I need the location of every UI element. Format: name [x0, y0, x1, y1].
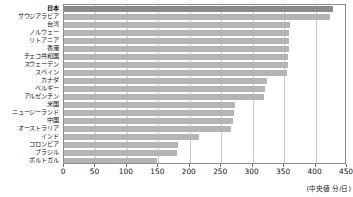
category-label: ブラジル — [0, 148, 61, 156]
category-label: ベルギー — [0, 84, 61, 92]
tick-label: 100 — [119, 167, 133, 176]
bar — [64, 62, 288, 68]
tick-label: 200 — [182, 167, 196, 176]
category-label: 日本 — [0, 4, 61, 12]
bar — [64, 134, 199, 140]
tick-label: 250 — [213, 167, 227, 176]
category-label: インド — [0, 132, 61, 140]
bar-row — [64, 141, 345, 149]
tick-label: 0 — [61, 167, 66, 176]
tick-label: 150 — [150, 167, 164, 176]
bar-row — [64, 125, 345, 133]
bar-row — [64, 77, 345, 85]
bar — [64, 94, 264, 100]
category-axis-labels: 日本サウジアラビア台湾ノルウェーリトアニア香港チェコ共和国スウェーデンスペインカ… — [0, 4, 61, 164]
bar — [64, 38, 289, 44]
tick-label: 300 — [245, 167, 259, 176]
bar-row — [64, 29, 345, 37]
category-label: リトアニア — [0, 36, 61, 44]
bar — [64, 110, 234, 116]
bar-row — [64, 85, 345, 93]
category-label: 米国 — [0, 100, 61, 108]
category-label: カナダ — [0, 76, 61, 84]
bar-row — [64, 133, 345, 141]
category-label: ポルトガル — [0, 156, 61, 164]
bar-row — [64, 13, 345, 21]
bar-row — [64, 37, 345, 45]
bar — [64, 6, 333, 12]
plot-area — [63, 4, 346, 164]
bar-row — [64, 21, 345, 29]
bar — [64, 86, 265, 92]
bar-row — [64, 93, 345, 101]
bar-row — [64, 5, 345, 13]
bar-row — [64, 53, 345, 61]
category-label: 中国 — [0, 116, 61, 124]
category-label: スウェーデン — [0, 60, 61, 68]
bar-row — [64, 61, 345, 69]
bar — [64, 118, 233, 124]
bar-row — [64, 101, 345, 109]
bar-row — [64, 69, 345, 77]
bar — [64, 54, 288, 60]
category-label: ニュージーランド — [0, 108, 61, 116]
bar — [64, 46, 289, 52]
bar-series — [64, 5, 345, 163]
bar — [64, 30, 289, 36]
bar — [64, 70, 287, 76]
category-label: 台湾 — [0, 20, 61, 28]
category-label: アルゼンチン — [0, 92, 61, 100]
bar — [64, 126, 231, 132]
bar — [64, 22, 290, 28]
category-label: 香港 — [0, 44, 61, 52]
category-label: チェコ共和国 — [0, 52, 61, 60]
bar-row — [64, 45, 345, 53]
tick-label: 350 — [276, 167, 290, 176]
category-label: サウジアラビア — [0, 12, 61, 20]
bar-row — [64, 117, 345, 125]
bar-row — [64, 149, 345, 157]
bar — [64, 78, 267, 84]
tick-label: 50 — [90, 167, 99, 176]
category-label: ノルウェー — [0, 28, 61, 36]
bar — [64, 14, 330, 20]
tick-label: 450 — [339, 167, 353, 176]
horizontal-bar-chart: 日本サウジアラビア台湾ノルウェーリトアニア香港チェコ共和国スウェーデンスペインカ… — [0, 0, 353, 197]
category-label: コロンビア — [0, 140, 61, 148]
bar — [64, 150, 177, 156]
bar-row — [64, 157, 345, 164]
category-label: オーストラリア — [0, 124, 61, 132]
unit-caption: (中央値 分/日) — [307, 183, 351, 193]
bar — [64, 102, 235, 108]
tick-label: 400 — [307, 167, 321, 176]
category-label: スペイン — [0, 68, 61, 76]
bar-row — [64, 109, 345, 117]
value-axis: 050100150200250300350400450 — [63, 164, 346, 178]
bar — [64, 142, 178, 148]
